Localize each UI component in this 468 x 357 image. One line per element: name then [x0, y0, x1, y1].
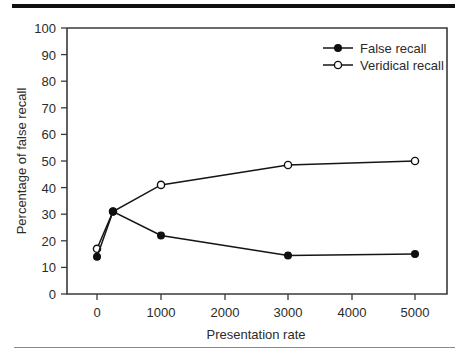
legend-marker-open-circle-icon — [334, 61, 341, 68]
veridical-recall-point — [157, 181, 164, 188]
x-tick-label: 5000 — [401, 305, 430, 320]
x-tick-label: 0 — [93, 305, 100, 320]
false-recall-point — [94, 253, 101, 260]
chart-legend: False recall Veridical recall — [323, 41, 444, 73]
y-tick-label: 20 — [42, 234, 56, 249]
x-tick-label: 3000 — [274, 305, 303, 320]
y-axis-title: Percentage of false recall — [14, 88, 29, 235]
x-tick-label: 2000 — [211, 305, 240, 320]
chart-area: 100 90 80 70 60 50 40 30 20 10 0 — [0, 0, 468, 345]
y-tick-label: 100 — [34, 21, 56, 36]
figure-container: 100 90 80 70 60 50 40 30 20 10 0 — [0, 0, 468, 357]
false-recall-point — [412, 251, 419, 258]
legend-label-veridical-recall: Veridical recall — [360, 58, 444, 73]
series-veridical-recall — [93, 157, 418, 252]
veridical-recall-line — [97, 161, 415, 249]
bottom-divider-rule — [14, 347, 455, 348]
y-tick-label: 40 — [42, 181, 56, 196]
y-tick-label: 70 — [42, 101, 56, 116]
x-axis-title: Presentation rate — [206, 327, 305, 342]
false-recall-point — [285, 252, 292, 259]
y-tick-label: 0 — [49, 287, 56, 302]
y-axis-tick-labels: 100 90 80 70 60 50 40 30 20 10 0 — [34, 21, 56, 302]
false-recall-line — [97, 212, 415, 257]
false-recall-point — [110, 208, 117, 215]
legend-item-veridical-recall: Veridical recall — [323, 58, 444, 73]
veridical-recall-point — [411, 157, 418, 164]
legend-item-false-recall: False recall — [323, 41, 427, 56]
y-tick-label: 90 — [42, 48, 56, 63]
x-tick-label: 1000 — [147, 305, 176, 320]
y-tick-label: 60 — [42, 127, 56, 142]
x-axis-ticks — [97, 294, 415, 300]
y-tick-label: 10 — [42, 260, 56, 275]
line-chart-svg: 100 90 80 70 60 50 40 30 20 10 0 — [0, 0, 468, 345]
false-recall-point — [158, 232, 165, 239]
x-axis-tick-labels: 0 1000 2000 3000 4000 5000 — [93, 305, 429, 320]
series-false-recall — [94, 208, 419, 260]
y-axis-ticks — [61, 28, 67, 294]
y-tick-label: 80 — [42, 74, 56, 89]
y-tick-label: 50 — [42, 154, 56, 169]
x-tick-label: 4000 — [338, 305, 367, 320]
legend-marker-filled-circle-icon — [335, 45, 342, 52]
legend-label-false-recall: False recall — [360, 41, 427, 56]
veridical-recall-point — [284, 161, 291, 168]
y-tick-label: 30 — [42, 207, 56, 222]
